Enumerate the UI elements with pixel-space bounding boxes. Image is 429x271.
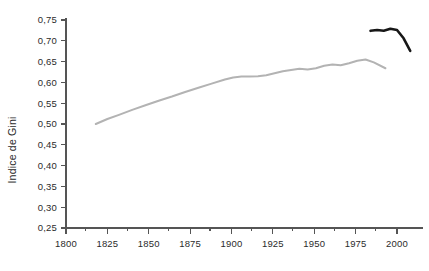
gini-index-line-chart: 0,250,300,350,400,450,500,550,600,650,70… (0, 0, 429, 271)
y-tick-label: 0,70 (38, 35, 57, 46)
y-tick-label: 0,75 (38, 14, 57, 25)
y-tick-label: 0,55 (38, 98, 57, 109)
y-axis-title: Indice de Gini (6, 116, 18, 183)
y-tick-label: 0,25 (38, 222, 57, 233)
x-tick-label: 1900 (221, 238, 243, 249)
x-tick-label: 1800 (55, 238, 77, 249)
chart-page: 0,250,300,350,400,450,500,550,600,650,70… (0, 0, 429, 271)
y-tick-label: 0,50 (38, 118, 57, 129)
y-tick-label: 0,30 (38, 202, 57, 213)
y-tick-label: 0,65 (38, 56, 57, 67)
y-tick-label: 0,60 (38, 77, 57, 88)
x-tick-label: 1975 (345, 238, 367, 249)
y-tick-label: 0,35 (38, 181, 57, 192)
x-tick-label: 1950 (303, 238, 325, 249)
y-tick-label: 0,40 (38, 160, 57, 171)
y-axis-label-text: Indice de Gini (6, 116, 18, 183)
y-tick-label: 0,45 (38, 139, 57, 150)
x-tick-label: 1875 (179, 238, 201, 249)
x-tick-label: 1925 (262, 238, 284, 249)
x-tick-label: 1825 (96, 238, 118, 249)
x-tick-label: 1850 (138, 238, 160, 249)
x-tick-label: 2000 (386, 238, 408, 249)
